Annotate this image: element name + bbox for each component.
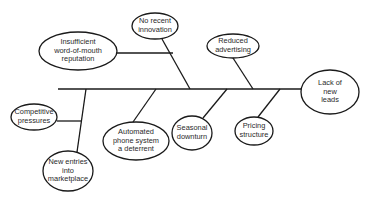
effect-label: Lack of new leads bbox=[311, 79, 349, 105]
reduced-advertising-label: Reduced advertising bbox=[215, 37, 251, 54]
new-entries-label: New entries into marketplace bbox=[48, 158, 88, 184]
automated-phone-system-bone bbox=[133, 89, 156, 122]
competitive-pressures-label: Competitive pressures bbox=[14, 108, 53, 125]
pricing-structure-bone bbox=[258, 89, 280, 117]
no-recent-innovation-bone bbox=[162, 39, 190, 89]
insufficient-word-of-mouth-label: Insufficient word-of-mouth reputation bbox=[54, 38, 102, 64]
automated-phone-system-label: Automated phone system a deterrent bbox=[113, 128, 159, 154]
pricing-structure-label: Pricing structure bbox=[240, 122, 269, 139]
seasonal-downturn-bone bbox=[203, 89, 227, 118]
reduced-advertising-bone bbox=[233, 58, 253, 89]
seasonal-downturn-label: Seasonal downturn bbox=[177, 124, 208, 141]
no-recent-innovation-label: No recent innovation bbox=[138, 17, 172, 34]
